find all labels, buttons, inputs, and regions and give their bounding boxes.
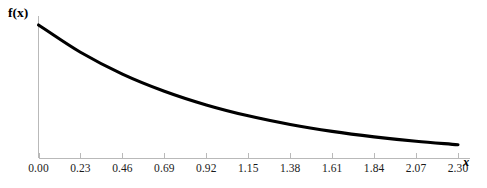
x-tick-label-8: 1.84 — [364, 162, 385, 174]
x-tick-label-9: 2.07 — [406, 162, 427, 174]
data-curve-fx — [39, 25, 459, 145]
x-tick-label-5: 1.15 — [238, 162, 259, 174]
x-axis-ticks — [40, 153, 459, 158]
x-axis-label: x — [463, 155, 469, 170]
plot-area — [0, 0, 487, 188]
x-tick-label-4: 0.92 — [196, 162, 217, 174]
x-tick-label-6: 1.38 — [280, 162, 301, 174]
x-tick-label-1: 0.23 — [70, 162, 91, 174]
x-tick-label-3: 0.69 — [154, 162, 175, 174]
chart-figure: f(x) 0.000.230.460.690.921.151.381.611.8… — [0, 0, 487, 188]
x-tick-label-0: 0.00 — [28, 162, 49, 174]
x-tick-label-2: 0.46 — [112, 162, 133, 174]
x-tick-label-7: 1.61 — [322, 162, 343, 174]
